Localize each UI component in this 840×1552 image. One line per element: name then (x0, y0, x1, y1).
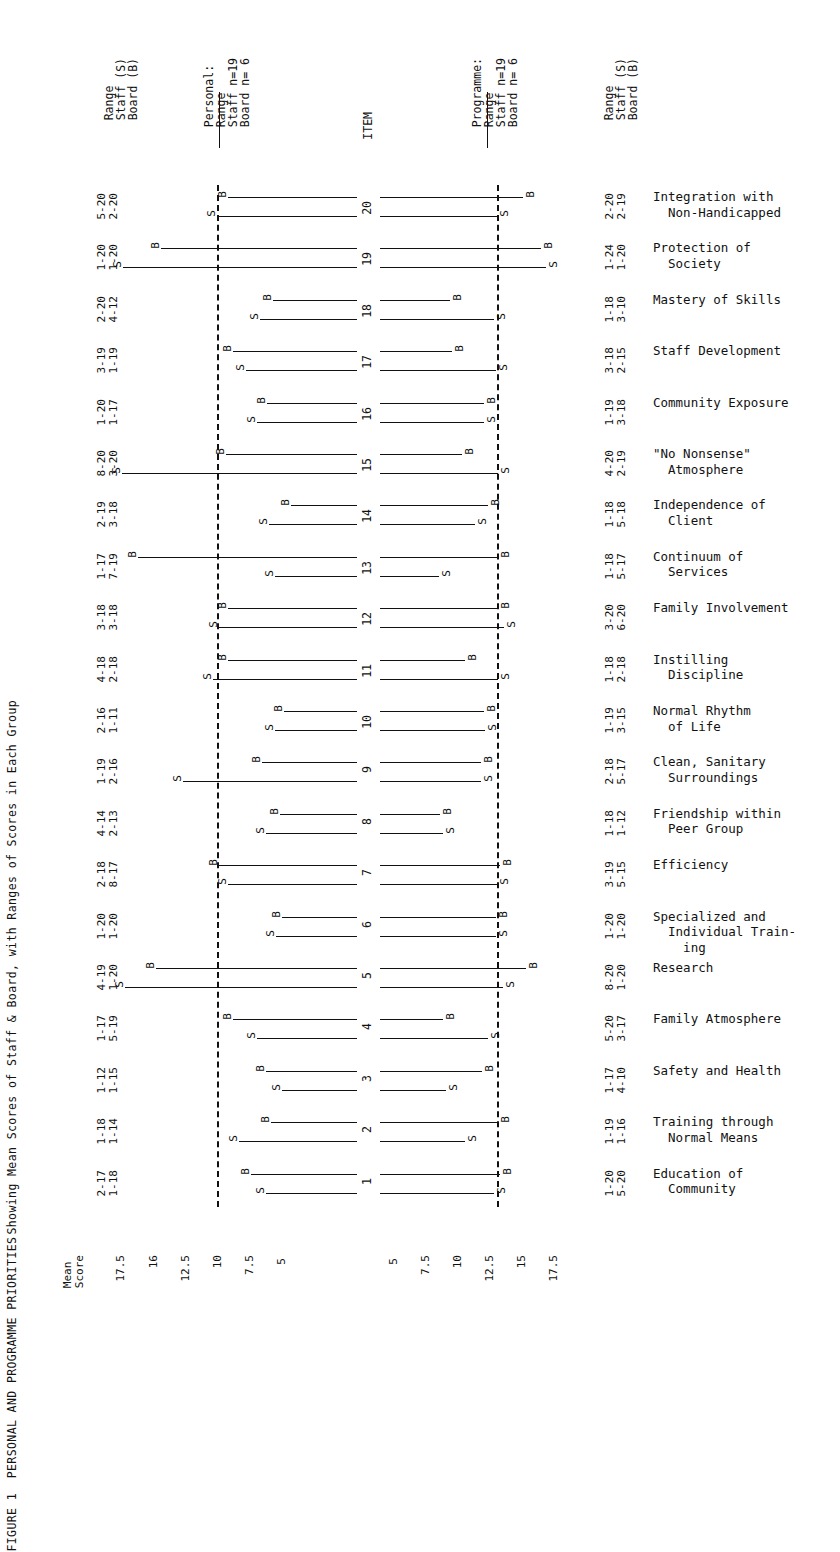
programme-staff-marker-label: S (548, 261, 559, 268)
programme-board-marker-label: B (543, 242, 554, 249)
item-number: 20 (362, 201, 374, 215)
programme-range-cell: 1-19 3-15 (604, 707, 627, 737)
programme-board-range-bar (380, 403, 484, 404)
personal-board-marker-label: B (150, 242, 161, 249)
programme-range-values: 5-20 3-17 (604, 1015, 627, 1042)
personal-staff-marker-label: S (172, 775, 183, 782)
programme-staff-marker-label: S (499, 878, 510, 885)
programme-board-range-bar (380, 1174, 500, 1175)
programme-staff-range-bar (380, 1090, 446, 1091)
personal-board-range-bar (228, 660, 357, 661)
item-number: 19 (362, 252, 374, 266)
personal-staff-marker-label: S (206, 210, 217, 217)
personal-range-cell: 2-16 1-11 (96, 707, 119, 737)
personal-staff-range-bar (266, 833, 357, 834)
programme-range-values: 4-20 2-19 (604, 450, 627, 477)
item-label: Mastery of Skills (653, 292, 781, 308)
programme-range-values: 3-18 2-15 (604, 347, 627, 374)
personal-range-values: 4-14 2-13 (96, 810, 119, 837)
programme-range-values: 2-18 5-17 (604, 758, 627, 785)
programme-board-marker-label: B (445, 1013, 456, 1020)
programme-board-marker-label: B (486, 397, 497, 404)
personal-staff-range-bar (257, 1038, 357, 1039)
item-number: 2 (362, 1126, 374, 1133)
item-label: Independence of Client (653, 497, 766, 528)
personal-staff-range-bar (122, 473, 357, 474)
programme-range-cell: 1-18 5-17 (604, 553, 627, 583)
personal-board-range-bar (219, 865, 357, 866)
personal-staff-marker-label: S (264, 570, 275, 577)
personal-range-cell: 1-17 5-19 (96, 1015, 119, 1045)
programme-range-cell: 5-20 3-17 (604, 1015, 627, 1045)
programme-staff-range-bar (380, 1141, 465, 1142)
programme-board-range-bar (380, 300, 450, 301)
programme-board-range-bar (380, 711, 484, 712)
programme-staff-range-bar (380, 987, 503, 988)
programme-board-marker-label: B (502, 859, 513, 866)
personal-staff-range-bar (257, 422, 357, 423)
personal-staff-range-bar (266, 1193, 357, 1194)
item-number: 1 (362, 1178, 374, 1185)
programme-board-marker-label: B (464, 448, 475, 455)
personal-staff-marker-label: S (217, 878, 228, 885)
personal-range-values: 5-20 2-20 (96, 193, 119, 220)
personal-range-values: 3-18 3-18 (96, 604, 119, 631)
personal-staff-range-bar (275, 730, 357, 731)
item-number: 5 (362, 972, 374, 979)
personal-range-cell: 3-18 3-18 (96, 604, 119, 634)
personal-board-range-bar (280, 814, 357, 815)
personal-board-range-bar (273, 300, 357, 301)
personal-staff-marker-label: S (235, 364, 246, 371)
programme-range-cell: 1-20 1-20 (604, 913, 627, 943)
programme-range-cell: 2-20 2-19 (604, 193, 627, 223)
personal-board-marker-label: B (269, 808, 280, 815)
personal-staff-marker-label: S (271, 1084, 282, 1091)
programme-staff-range-bar (380, 730, 485, 731)
programme-staff-range-bar (380, 576, 439, 577)
programme-staff-marker-label: S (498, 364, 509, 371)
item-number: 14 (362, 509, 374, 523)
programme-staff-range-bar (380, 884, 497, 885)
personal-board-range-bar (138, 557, 357, 558)
programme-staff-range-bar (380, 267, 546, 268)
programme-board-marker-label: B (452, 294, 463, 301)
personal-staff-range-bar (213, 679, 357, 680)
personal-staff-range-bar (217, 216, 357, 217)
programme-range-cell: 1-19 3-18 (604, 399, 627, 429)
item-number: 12 (362, 612, 374, 626)
personal-range-values: 1-20 1-20 (96, 913, 119, 940)
programme-staff-range-bar (380, 473, 498, 474)
programme-board-range-bar (380, 608, 498, 609)
personal-board-range-bar (267, 403, 357, 404)
personal-range-values: 2-19 3-18 (96, 501, 119, 528)
personal-range-values: 8-20 3-20 (96, 450, 119, 477)
programme-board-marker-label: B (442, 808, 453, 815)
item-label: Friendship within Peer Group (653, 806, 781, 837)
programme-board-range-bar (380, 917, 496, 918)
programme-range-values: 1-18 1-12 (604, 810, 627, 837)
personal-range-cell: 8-20 3-20 (96, 450, 119, 480)
personal-board-marker-label: B (273, 705, 284, 712)
programme-staff-marker-label: S (500, 673, 511, 680)
programme-board-marker-label: B (467, 654, 478, 661)
personal-board-range-bar (161, 248, 357, 249)
personal-staff-marker-label: S (264, 724, 275, 731)
personal-staff-range-bar (282, 1090, 357, 1091)
item-label: Protection of Society (653, 240, 751, 271)
personal-board-marker-label: B (271, 911, 282, 918)
personal-staff-marker-label: S (208, 621, 219, 628)
programme-staff-range-bar (380, 370, 496, 371)
personal-range-cell: 2-19 3-18 (96, 501, 119, 531)
personal-board-marker-label: B (217, 602, 228, 609)
programme-range-cell: 4-20 2-19 (604, 450, 627, 480)
item-label: Continuum of Services (653, 549, 743, 580)
programme-range-cell: 8-20 1-20 (604, 964, 627, 994)
programme-board-range-bar (380, 197, 523, 198)
header-left-range: Range Staff (S) Board (B) (103, 58, 139, 123)
personal-range-values: 1-17 7-19 (96, 553, 119, 580)
programme-range-cell: 2-18 5-17 (604, 758, 627, 788)
personal-board-range-bar (284, 711, 357, 712)
personal-staff-range-bar (260, 319, 357, 320)
personal-range-cell: 2-17 1-18 (96, 1170, 119, 1200)
personal-board-range-bar (251, 1174, 357, 1175)
